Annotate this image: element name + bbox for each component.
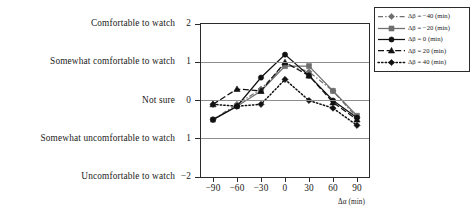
y-axis-label: Comfortable to watch2: [91, 19, 191, 28]
y-axis-label: Not sure0: [142, 96, 191, 105]
y-axis-label: Somewhat uncomfortable to watch1: [40, 134, 191, 143]
y-axis-label-text: Uncomfortable to watch: [81, 171, 175, 181]
x-axis-title: Δα (min): [338, 199, 365, 206]
y-axis-tick-value: 0: [180, 96, 191, 105]
series-1: [211, 64, 360, 123]
legend-marker-diamond-icon: [377, 11, 406, 22]
plot-area: [200, 23, 370, 178]
legend-marker-triangle-icon: [377, 45, 406, 56]
x-axis-tick: [261, 177, 262, 182]
y-axis-tick-value: 1: [180, 57, 191, 66]
chart-figure: Comfortable to watch2Somewhat comfortabl…: [0, 0, 474, 214]
y-axis-label: Somewhat comfortable to watch1: [50, 57, 191, 66]
legend-label-3: Δβ = 20 (min): [406, 48, 446, 55]
y-axis-tick-value: 1: [180, 134, 191, 143]
legend-item-4[interactable]: Δβ = 40 (min): [377, 57, 466, 68]
y-axis-tick-value: −2: [180, 172, 191, 181]
legend-item-0[interactable]: Δβ = −40 (min): [377, 11, 466, 22]
legend-label-2: Δβ = 0 (min): [406, 36, 443, 43]
y-axis-label: Uncomfortable to watch−2: [81, 172, 191, 181]
y-axis-label-text: Somewhat comfortable to watch: [50, 56, 175, 66]
x-axis-tick: [237, 177, 238, 182]
legend-marker-diamond-icon: [377, 57, 406, 68]
y-axis-label-text: Somewhat uncomfortable to watch: [40, 133, 175, 143]
legend-item-3[interactable]: Δβ = 20 (min): [377, 45, 466, 56]
x-axis-tick: [285, 177, 286, 182]
y-axis-label-text: Not sure: [142, 95, 175, 105]
series-4: [210, 76, 360, 128]
x-axis-tick: [357, 177, 358, 182]
gridline-y: [201, 62, 369, 63]
chart-legend: Δβ = −40 (min)Δβ = −20 (min)Δβ = 0 (min)…: [374, 7, 470, 72]
y-axis-tick-value: 2: [180, 19, 191, 28]
legend-label-4: Δβ = 40 (min): [406, 59, 446, 66]
legend-item-1[interactable]: Δβ = −20 (min): [377, 22, 466, 33]
gridline-y: [201, 100, 369, 101]
legend-item-2[interactable]: Δβ = 0 (min): [377, 34, 466, 45]
x-axis-tick: [309, 177, 310, 182]
legend-marker-square-icon: [377, 23, 406, 34]
legend-label-1: Δβ = −20 (min): [406, 25, 450, 32]
x-axis-tick: [333, 177, 334, 182]
x-axis-label: 90: [342, 184, 372, 193]
legend-label-0: Δβ = −40 (min): [406, 13, 450, 20]
y-axis-label-text: Comfortable to watch: [91, 18, 175, 28]
gridline-y: [201, 138, 369, 139]
legend-marker-circle-icon: [377, 34, 406, 45]
x-axis-tick: [213, 177, 214, 182]
